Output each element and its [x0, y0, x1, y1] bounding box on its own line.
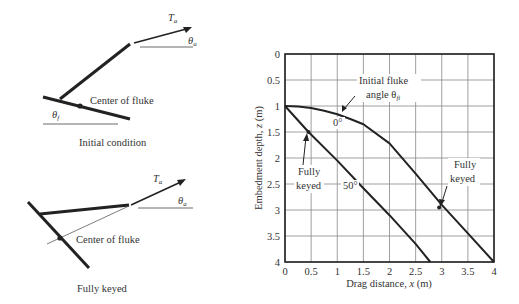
anchor-line [131, 181, 183, 205]
x-tick-label: 1.5 [357, 266, 370, 277]
y-tick-label: 0 [275, 49, 280, 60]
annotation-fully-keyed-2: Fully [454, 159, 477, 170]
x-tick-label: 3 [439, 266, 444, 277]
center-of-fluke-label: Center of fluke [76, 234, 140, 245]
center-of-fluke-dot [77, 103, 82, 108]
caption-fully-keyed: Fully keyed [77, 283, 128, 294]
anchor-shank [40, 205, 129, 214]
x-tick-label: 0 [282, 266, 287, 277]
caption-initial: Initial condition [79, 137, 147, 148]
annotation-arrow [442, 186, 447, 202]
y-tick-label: 1.5 [267, 127, 280, 138]
anchor-angle-label: θa [178, 195, 187, 208]
x-tick-label: 3.5 [461, 266, 474, 277]
center-of-fluke-dot [57, 235, 62, 240]
series-label-0deg: 0° [333, 117, 342, 128]
x-axis-title: Drag distance, x (m) [346, 278, 432, 290]
anchor-shank [60, 44, 130, 99]
fully-keyed-diagram: Ta θa Center of fluke Fully keyed [28, 173, 193, 294]
anchor-schematics: Ta θa θf Center of fluke Initial conditi… [0, 0, 519, 304]
fluke-angle-label: θf [52, 109, 60, 122]
force-label: Ta [168, 12, 178, 25]
x-tick-label: 4 [491, 266, 497, 277]
y-tick-label: 0.5 [267, 75, 280, 86]
x-tick-label: 2 [387, 266, 392, 277]
force-label: Ta [153, 173, 163, 186]
x-tick-label: 1 [335, 266, 340, 277]
anchor-angle-label: θa [188, 35, 197, 48]
x-tick-label: 0.5 [305, 266, 318, 277]
y-tick-label: 3.5 [267, 231, 280, 242]
arrow-head-icon [177, 179, 186, 186]
annotation-fully-keyed-1: Fully [298, 166, 321, 177]
y-axis-title: Embedment depth, z (m) [253, 106, 265, 210]
annotation-arrow [303, 137, 306, 165]
annotation-initial-fluke: Initial fluke [359, 75, 409, 86]
annotation-fully-keyed-1b: keyed [296, 180, 322, 191]
y-tick-label: 2.5 [267, 179, 280, 190]
annotation-arrow [344, 96, 355, 109]
y-tick-label: 4 [275, 257, 281, 268]
arrow-head-icon [303, 133, 309, 141]
y-tick-label: 2 [275, 153, 280, 164]
fully-keyed-marker [307, 130, 311, 134]
y-tick-label: 3 [275, 205, 280, 216]
series-label-50deg: 50° [343, 180, 358, 191]
x-tick-label: 2.5 [409, 266, 422, 277]
center-of-fluke-label: Center of fluke [90, 95, 154, 106]
annotation-fully-keyed-2b: keyed [450, 173, 476, 184]
y-tick-label: 1 [275, 101, 280, 112]
anchor-line [134, 28, 190, 43]
initial-condition-diagram: Ta θa θf Center of fluke Initial conditi… [43, 12, 197, 148]
chart: 00.511.522.533.5400.511.522.533.54 Drag … [253, 49, 497, 290]
